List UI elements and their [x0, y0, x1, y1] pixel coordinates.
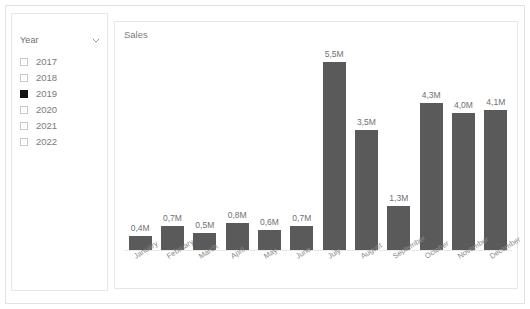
checkbox-checked-icon[interactable] — [20, 90, 28, 98]
bar-group[interactable]: 0,7M — [290, 46, 313, 250]
slicer-item[interactable]: 2019 — [20, 86, 102, 102]
slicer-item[interactable]: 2017 — [20, 54, 102, 70]
slicer-item-label: 2017 — [36, 56, 57, 68]
year-slicer-card: Year 201720182019202020212022 — [11, 13, 108, 291]
bar[interactable] — [420, 103, 443, 250]
bar[interactable] — [484, 110, 507, 250]
bar-group[interactable]: 0,5M — [193, 46, 216, 250]
bar-value-label: 4,3M — [422, 90, 441, 100]
chevron-down-icon[interactable] — [91, 35, 101, 45]
slicer-item[interactable]: 2018 — [20, 70, 102, 86]
bar-series: 0,4M0,7M0,5M0,8M0,6M0,7M5,5M3,5M1,3M4,3M… — [124, 46, 512, 250]
checkbox-icon[interactable] — [20, 58, 28, 66]
bar-value-label: 0,4M — [131, 223, 150, 233]
slicer-item-list: 201720182019202020212022 — [20, 54, 102, 150]
slicer-item-label: 2022 — [36, 136, 57, 148]
bar-group[interactable]: 3,5M — [355, 46, 378, 250]
x-axis-labels: JanuaryFebruaryMarchAprilMayJuneJulyAugu… — [124, 251, 512, 291]
bar-group[interactable]: 4,3M — [420, 46, 443, 250]
bar[interactable] — [355, 130, 378, 250]
bar-value-label: 0,5M — [195, 220, 214, 230]
page-root: Year 201720182019202020212022 Sales 0,4M… — [0, 0, 530, 309]
bar[interactable] — [452, 113, 475, 250]
bar-group[interactable]: 1,3M — [387, 46, 410, 250]
sales-chart-card: Sales 0,4M0,7M0,5M0,8M0,6M0,7M5,5M3,5M1,… — [114, 21, 518, 289]
bar-value-label: 0,7M — [292, 213, 311, 223]
bar-value-label: 1,3M — [389, 193, 408, 203]
slicer-item-label: 2021 — [36, 120, 57, 132]
bar-value-label: 0,6M — [260, 217, 279, 227]
checkbox-icon[interactable] — [20, 106, 28, 114]
slicer-item-label: 2020 — [36, 104, 57, 116]
slicer-item-label: 2018 — [36, 72, 57, 84]
bar-value-label: 4,0M — [454, 100, 473, 110]
bar-group[interactable]: 0,6M — [258, 46, 281, 250]
plot-area: 0,4M0,7M0,5M0,8M0,6M0,7M5,5M3,5M1,3M4,3M… — [115, 22, 517, 288]
checkbox-icon[interactable] — [20, 74, 28, 82]
bar-value-label: 0,8M — [228, 210, 247, 220]
checkbox-icon[interactable] — [20, 122, 28, 130]
slicer-title: Year — [20, 34, 39, 46]
bar-value-label: 4,1M — [486, 97, 505, 107]
bar-group[interactable]: 0,7M — [161, 46, 184, 250]
checkbox-icon[interactable] — [20, 138, 28, 146]
bar-group[interactable]: 4,1M — [484, 46, 507, 250]
bar[interactable] — [323, 62, 346, 250]
bar-group[interactable]: 0,8M — [226, 46, 249, 250]
bar-group[interactable]: 5,5M — [323, 46, 346, 250]
slicer-item[interactable]: 2021 — [20, 118, 102, 134]
bar[interactable] — [226, 223, 249, 250]
bar[interactable] — [290, 226, 313, 250]
slicer-item[interactable]: 2020 — [20, 102, 102, 118]
bar-value-label: 5,5M — [325, 49, 344, 59]
bar-value-label: 3,5M — [357, 117, 376, 127]
bar-value-label: 0,7M — [163, 213, 182, 223]
slicer-item-label: 2019 — [36, 88, 57, 100]
bar-group[interactable]: 4,0M — [452, 46, 475, 250]
bar-group[interactable]: 0,4M — [129, 46, 152, 250]
slicer-header: Year — [20, 34, 102, 48]
slicer-item[interactable]: 2022 — [20, 134, 102, 150]
